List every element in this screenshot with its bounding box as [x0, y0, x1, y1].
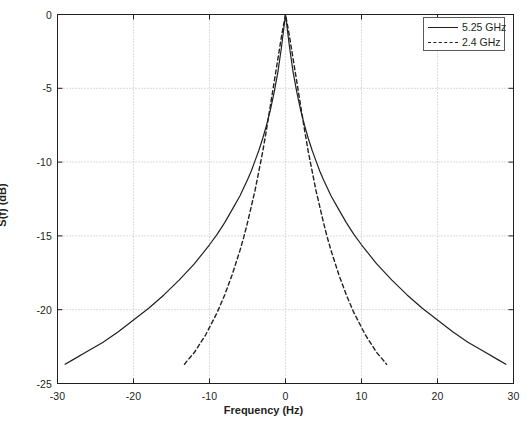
legend-item-series-0: 5.25 GHz — [424, 19, 504, 35]
x-tick-20: 20 — [432, 390, 444, 402]
y-axis-title: S(f) (dB) — [0, 183, 8, 226]
x-tick-10: 10 — [356, 390, 368, 402]
spectral-density-chart: 0-5-10-15-20-25 -30-20-100102030 S(f) (d… — [0, 0, 527, 425]
plot-frame — [58, 15, 514, 384]
y-tick-0: 0 — [14, 9, 52, 21]
y-tick--20: -20 — [14, 304, 52, 316]
legend-item-series-1: 2.4 GHz — [424, 34, 504, 50]
x-tick--30: -30 — [50, 390, 65, 402]
legend-swatch-dashed-icon — [428, 37, 458, 47]
y-tick--10: -10 — [14, 156, 52, 168]
gridlines — [58, 15, 514, 384]
plot-canvas — [0, 0, 527, 425]
x-axis-title: Frequency (Hz) — [0, 404, 527, 416]
legend-swatch-solid-icon — [428, 22, 458, 32]
legend-label-series-1: 2.4 GHz — [462, 36, 501, 48]
tick-marks — [58, 15, 514, 384]
y-tick--25: -25 — [14, 378, 52, 390]
x-tick-30: 30 — [508, 390, 520, 402]
x-tick-0: 0 — [283, 390, 289, 402]
legend-label-series-0: 5.25 GHz — [462, 21, 506, 33]
y-tick--15: -15 — [14, 230, 52, 242]
legend: 5.25 GHz 2.4 GHz — [423, 17, 505, 51]
y-tick--5: -5 — [14, 82, 52, 94]
x-tick--20: -20 — [126, 390, 141, 402]
x-tick--10: -10 — [202, 390, 217, 402]
